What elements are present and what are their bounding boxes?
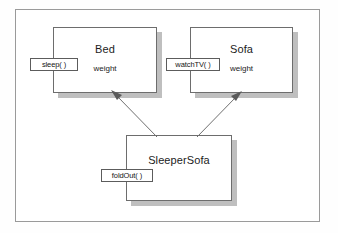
bed-operation-label: sleep( ): [42, 60, 66, 69]
sleepersofa-operation-label: foldOut( ): [112, 171, 142, 180]
sofa-operation-label: watchTV( ): [175, 60, 210, 69]
sleepersofa-class-name: SleeperSofa: [127, 154, 231, 166]
sofa-operation-box[interactable]: watchTV( ): [166, 58, 220, 71]
bed-class-name: Bed: [54, 43, 156, 55]
sofa-class-name: Sofa: [191, 43, 292, 55]
sleepersofa-class-box[interactable]: SleeperSofa: [126, 135, 232, 201]
bed-operation-box[interactable]: sleep( ): [30, 58, 78, 71]
sleepersofa-operation-box[interactable]: foldOut( ): [101, 169, 153, 182]
diagram-canvas: Bed weight sleep( ) Sofa weight watchTV(…: [0, 0, 338, 233]
